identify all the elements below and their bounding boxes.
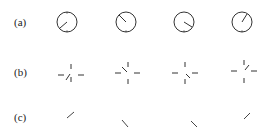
cross-b4-icon bbox=[231, 60, 257, 83]
row-c-hands bbox=[67, 112, 250, 127]
dial-a1-icon bbox=[57, 12, 77, 32]
gauge-figure: (a) (b) (c) bbox=[0, 0, 267, 136]
hand-c1-icon bbox=[67, 112, 74, 118]
gauge-panels bbox=[0, 0, 267, 136]
dial-a2-icon bbox=[116, 12, 136, 32]
cross-b1-icon bbox=[58, 64, 84, 82]
cross-b2-icon bbox=[115, 62, 140, 84]
cross-b3-icon bbox=[172, 62, 198, 84]
hand-c3-icon bbox=[191, 121, 197, 127]
hand-c4-icon bbox=[244, 113, 250, 119]
row-a-dials bbox=[57, 12, 252, 32]
hand-c2-icon bbox=[122, 120, 128, 127]
dial-a4-icon bbox=[232, 12, 252, 32]
dial-a3-icon bbox=[174, 12, 194, 32]
row-b-crosses bbox=[58, 60, 257, 84]
